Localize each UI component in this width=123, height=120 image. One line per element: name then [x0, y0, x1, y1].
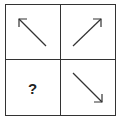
- horizontal-divider: [6, 59, 115, 60]
- arrow-up-left-icon: [6, 5, 61, 60]
- question-mark: ?: [6, 60, 61, 115]
- cell-bottom-right: [61, 60, 115, 115]
- arrow-down-right-icon: [61, 60, 115, 115]
- puzzle-grid: ?: [5, 4, 116, 116]
- cell-bottom-left: ?: [6, 60, 61, 115]
- cell-top-left: [6, 5, 61, 60]
- cell-top-right: [61, 5, 115, 60]
- vertical-divider: [60, 5, 61, 115]
- arrow-up-right-icon: [61, 5, 115, 60]
